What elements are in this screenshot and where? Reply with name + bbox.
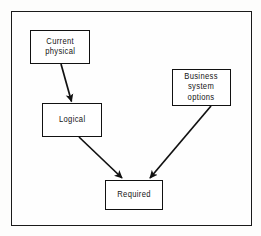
node-label: Logical — [59, 115, 85, 126]
node-current-physical[interactable]: Current physical — [30, 30, 90, 64]
node-label: Current physical — [45, 37, 75, 58]
node-label: Required — [117, 190, 151, 201]
node-business-system-options[interactable]: Business system options — [172, 69, 231, 106]
connector-business-to-required — [150, 106, 211, 178]
diagram-canvas: Current physical Logical Business system… — [0, 0, 261, 236]
node-label: Business system options — [185, 72, 219, 104]
connector-logical-to-required — [79, 137, 122, 178]
node-required[interactable]: Required — [105, 180, 163, 210]
node-logical[interactable]: Logical — [42, 103, 102, 137]
connector-current-physical-to-logical — [61, 64, 72, 102]
